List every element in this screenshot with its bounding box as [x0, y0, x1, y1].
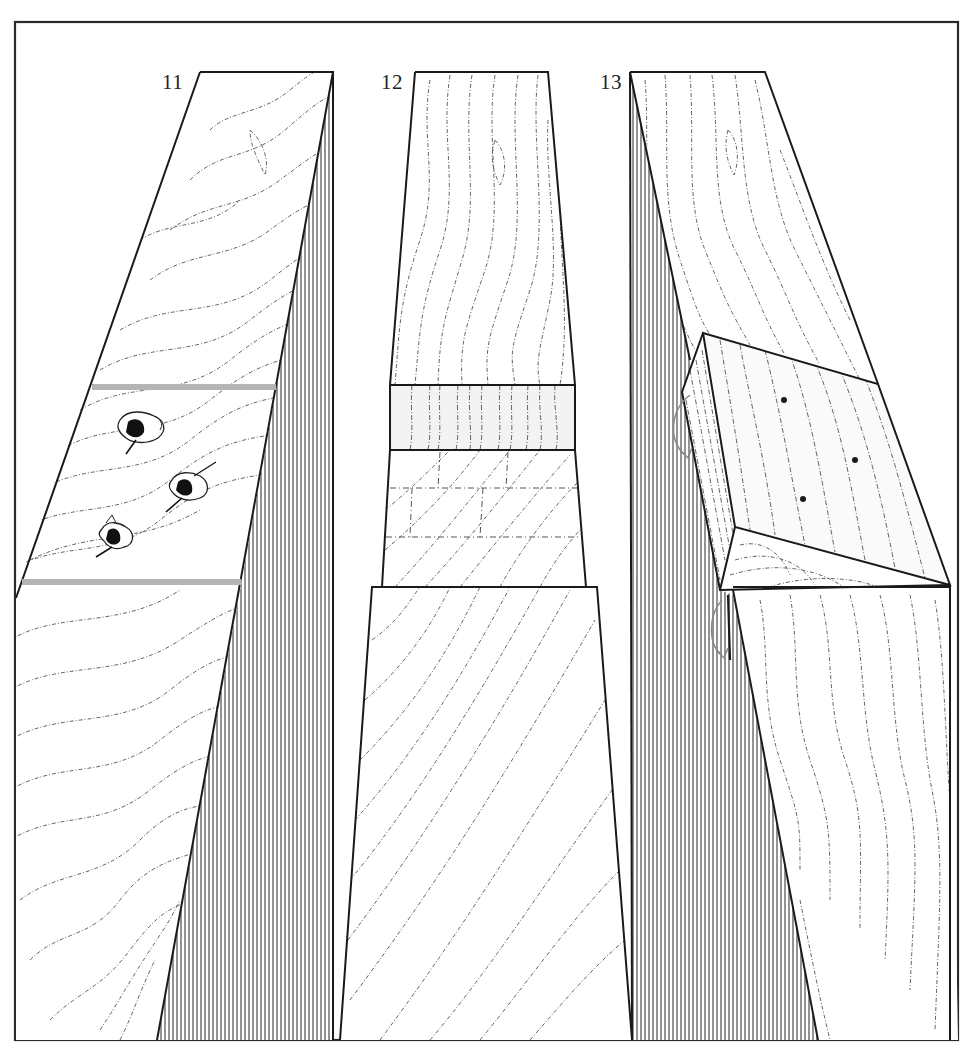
patch-band — [390, 385, 575, 450]
figure-canvas — [0, 0, 976, 1052]
patch-dot — [800, 496, 806, 502]
panel-12 — [340, 72, 632, 1040]
board-lower-face — [340, 587, 632, 1040]
panel-label-12: 12 — [381, 70, 403, 95]
patch-recess — [382, 450, 586, 587]
panel-label-11: 11 — [162, 70, 183, 95]
patch-dot — [781, 397, 787, 403]
patch-dot — [852, 457, 858, 463]
panel-13 — [630, 72, 958, 1040]
panel-11 — [10, 65, 360, 1040]
board-upper-face — [390, 72, 575, 385]
panel-label-13: 13 — [600, 70, 622, 95]
woodworking-figure: 11 12 13 — [0, 0, 976, 1052]
